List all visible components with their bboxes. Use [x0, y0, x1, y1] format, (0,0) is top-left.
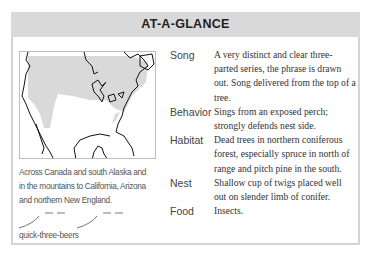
fact-label: Habitat	[170, 133, 214, 176]
fact-value: Dead trees in northern coniferous forest…	[214, 133, 356, 176]
song-sonogram-icon	[17, 208, 127, 230]
range-caption: Across Canada and south Alaska and in th…	[19, 165, 152, 207]
facts-list: Song A very distinct and clear three-par…	[170, 48, 356, 218]
fact-value: Insects.	[214, 204, 356, 218]
fact-row-behavior: Behavior Sings from an exposed perch; st…	[170, 105, 356, 133]
fact-label: Nest	[170, 176, 214, 204]
fact-row-food: Food Insects.	[170, 204, 356, 218]
card-header: AT-A-GLANCE	[11, 12, 360, 37]
fact-row-song: Song A very distinct and clear three-par…	[170, 48, 356, 105]
fact-value: A very distinct and clear three-parted s…	[214, 48, 356, 105]
range-map	[19, 51, 156, 159]
fact-row-nest: Nest Shallow cup of twigs placed well ou…	[170, 176, 356, 204]
fact-label: Food	[170, 204, 214, 218]
fact-label: Song	[170, 48, 214, 105]
fact-label: Behavior	[170, 105, 214, 133]
fact-value: Shallow cup of twigs placed well out on …	[214, 176, 356, 204]
song-mnemonic: quick-three-beers	[19, 230, 79, 240]
fact-row-habitat: Habitat Dead trees in northern coniferou…	[170, 133, 356, 176]
card-title: AT-A-GLANCE	[141, 17, 229, 31]
fact-value: Sings from an exposed perch; strongly de…	[214, 105, 356, 133]
range-map-icon	[20, 52, 156, 159]
